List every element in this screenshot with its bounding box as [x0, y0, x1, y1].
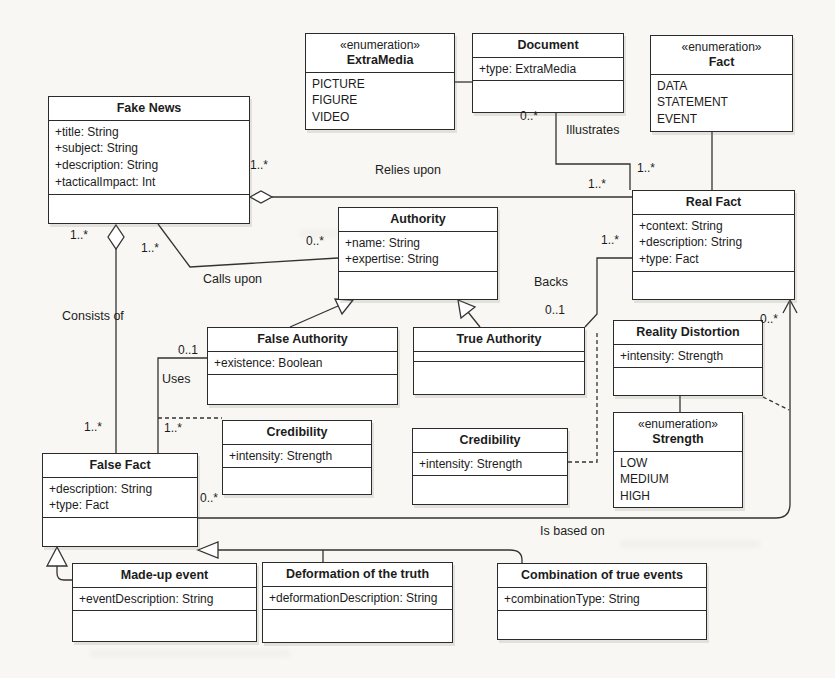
enum-name: ExtraMedia: [309, 53, 451, 69]
operations-compartment: [339, 272, 497, 299]
operations-compartment: [614, 368, 762, 395]
association-label-consists-of: Consists of: [62, 309, 124, 323]
operations-compartment: [263, 610, 452, 642]
enum-literal: HIGH: [620, 488, 736, 505]
enum-name: Strength: [617, 432, 739, 448]
association-label-backs: Backs: [534, 275, 568, 289]
multiplicity-label: 0..*: [306, 234, 324, 248]
class-attribute: +title: String: [55, 124, 243, 141]
literals-compartment: PICTURE FIGURE VIDEO: [306, 73, 454, 129]
class-title: «enumeration» ExtraMedia: [306, 34, 454, 73]
operations-compartment: [208, 375, 397, 404]
false-authority-generalization-line: [290, 306, 338, 327]
distortion-isbasedon-dashed-line: [763, 397, 789, 410]
class-title: «enumeration» Fact: [651, 36, 792, 75]
made-up-event-generalization-line: [57, 566, 72, 580]
class-attribute: +type: Fact: [49, 497, 191, 514]
class-deformation-of-the-truth: Deformation of the truth +deformationDes…: [262, 562, 453, 643]
class-true-authority: True Authority: [413, 327, 585, 395]
class-title: Credibility: [413, 429, 567, 453]
true-authority-generalization-line: [468, 312, 480, 327]
class-title: Authority: [339, 208, 497, 232]
association-label-illustrates: Illustrates: [566, 123, 620, 137]
class-title: False Authority: [208, 328, 397, 352]
association-label-uses: Uses: [162, 372, 190, 386]
class-title: Credibility: [223, 421, 371, 445]
multiplicity-label: 0..*: [760, 312, 778, 326]
attributes-compartment: +description: String +type: Fact: [43, 478, 197, 519]
aggregation-diamond: [250, 191, 272, 203]
class-made-up-event: Made-up event +eventDescription: String: [72, 563, 257, 642]
enum-extramedia: «enumeration» ExtraMedia PICTURE FIGURE …: [305, 33, 455, 130]
attributes-compartment: +combinationType: String: [498, 588, 706, 612]
attributes-compartment: +intensity: Strength: [223, 445, 371, 469]
class-authority: Authority +name: String +expertise: Stri…: [338, 207, 498, 300]
multiplicity-label: 1..*: [588, 177, 606, 191]
class-attribute: +description: String: [639, 234, 788, 251]
class-attribute: +combinationType: String: [504, 591, 700, 608]
class-attribute: +tacticalImpact: Int: [55, 174, 243, 191]
class-false-fact: False Fact +description: String +type: F…: [42, 453, 198, 547]
class-attribute: +description: String: [55, 157, 243, 174]
attributes-compartment: +existence: Boolean: [208, 352, 397, 376]
class-document: Document +type: ExtraMedia: [472, 33, 624, 113]
operations-compartment: [223, 468, 371, 494]
enum-strength: «enumeration» Strength LOW MEDIUM HIGH: [613, 412, 743, 508]
class-title: True Authority: [414, 328, 584, 352]
enum-literal: STATEMENT: [657, 94, 786, 111]
multiplicity-label: 0..1: [178, 343, 198, 357]
class-title: Reality Distortion: [614, 321, 762, 345]
class-combination-of-true-events: Combination of true events +combinationT…: [497, 563, 707, 640]
class-attribute: +eventDescription: String: [79, 591, 250, 608]
multiplicity-label: 1..*: [70, 228, 88, 242]
class-credibility-backs: Credibility +intensity: Strength: [412, 428, 568, 505]
enum-literal: DATA: [657, 78, 786, 95]
multiplicity-label: 0..*: [200, 491, 218, 505]
attributes-compartment: +context: String +description: String +t…: [633, 215, 794, 272]
aggregation-diamond: [108, 225, 124, 249]
operations-compartment: [633, 272, 794, 299]
class-false-authority: False Authority +existence: Boolean: [207, 327, 398, 405]
class-attribute: +expertise: String: [345, 251, 491, 268]
class-attribute: +type: ExtraMedia: [479, 61, 617, 78]
class-real-fact: Real Fact +context: String +description:…: [632, 190, 795, 300]
multiplicity-label: 1..*: [601, 233, 619, 247]
multiplicity-label: 1..*: [164, 421, 182, 435]
operations-compartment: [413, 476, 567, 504]
attributes-compartment: +name: String +expertise: String: [339, 232, 497, 273]
enum-literal: EVENT: [657, 111, 786, 128]
operations-compartment: [498, 611, 706, 639]
class-attribute: +intensity: Strength: [620, 348, 756, 365]
operations-compartment: [414, 362, 584, 394]
operations-compartment: [43, 518, 197, 546]
enum-literal: MEDIUM: [620, 471, 736, 488]
literals-compartment: LOW MEDIUM HIGH: [614, 452, 742, 508]
stereotype-label: «enumeration»: [617, 417, 739, 432]
literals-compartment: DATA STATEMENT EVENT: [651, 75, 792, 131]
class-title: Document: [473, 34, 623, 58]
attributes-compartment: +intensity: Strength: [614, 345, 762, 369]
stereotype-label: «enumeration»: [654, 40, 789, 55]
association-label-relies-upon: Relies upon: [375, 163, 441, 177]
class-attribute: +type: Fact: [639, 251, 788, 268]
class-attribute: +existence: Boolean: [214, 355, 391, 372]
enum-literal: FIGURE: [312, 92, 448, 109]
multiplicity-label: 1..*: [141, 241, 159, 255]
operations-compartment: [73, 611, 256, 641]
enum-fact: «enumeration» Fact DATA STATEMENT EVENT: [650, 35, 793, 132]
stereotype-label: «enumeration»: [309, 38, 451, 53]
association-label-calls-upon: Calls upon: [203, 272, 262, 286]
class-title: False Fact: [43, 454, 197, 478]
attributes-compartment: +eventDescription: String: [73, 588, 256, 612]
attributes-compartment: +deformationDescription: String: [263, 587, 452, 611]
class-attribute: +name: String: [345, 235, 491, 252]
uml-class-diagram: Fake News +title: String +subject: Strin…: [0, 0, 835, 678]
multiplicity-label: 0..*: [520, 109, 538, 123]
class-title: Made-up event: [73, 564, 256, 588]
attributes-compartment: [414, 352, 584, 362]
class-title: Deformation of the truth: [263, 563, 452, 587]
attributes-compartment: +title: String +subject: String +descrip…: [49, 121, 249, 195]
class-title: Fake News: [49, 97, 249, 121]
association-label-is-based-on: Is based on: [540, 524, 605, 538]
operations-compartment: [49, 195, 249, 223]
